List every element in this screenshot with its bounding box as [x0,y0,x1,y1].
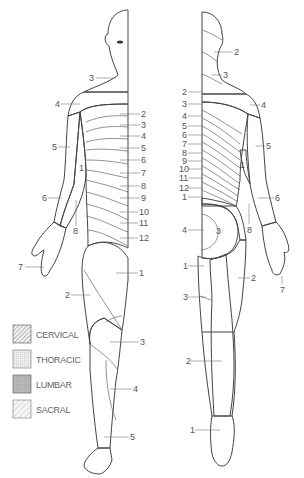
label-s3-back: 3 [216,226,221,236]
lumbar-swatch [13,375,31,393]
back-leg-sacral-s2 [210,254,234,416]
front-lower-leg-lumbar [90,318,122,448]
label-l5-front: 5 [130,432,135,442]
back-head-cervical [202,12,246,94]
label-t4-back: 4 [182,111,187,121]
front-hand [32,222,66,276]
label-l3-back: 3 [183,292,188,302]
label-s4-back: 4 [182,225,187,235]
label-c5-front: 5 [52,142,57,152]
label-c8-front: 8 [73,226,78,236]
label-l4-front: 4 [133,384,138,394]
label-l2-back: 2 [251,273,256,283]
label-l1-front: 1 [139,268,144,278]
sacral-swatch [13,400,31,418]
label-t7-front: 7 [141,168,146,178]
back-thoracic-bands [202,110,242,206]
label-t6-front: 6 [141,155,146,165]
front-foot [84,448,112,474]
legend-label-cervical: CERVICAL [36,330,79,340]
label-l2-front: 2 [65,290,70,300]
label-c3-back: 3 [223,70,228,80]
label-c2-back: 2 [234,47,239,57]
label-t2-front: 2 [141,109,146,119]
label-c5-back: 5 [266,141,271,151]
cervical-swatch [13,325,31,343]
label-t1-front: 1 [79,163,84,173]
label-t3-front: 3 [141,120,146,130]
label-t2-back: 2 [182,87,187,97]
label-c7-front: 7 [18,262,23,272]
label-t3-back: 3 [182,99,187,109]
label-l1-back: 1 [182,192,187,202]
label-t5-front: 5 [141,143,146,153]
label-c6-back: 6 [275,193,280,203]
label-t10-front: 10 [139,207,149,217]
label-c3-front: 3 [89,73,94,83]
label-t11-back: 11 [179,173,188,183]
legend-item-lumbar: LUMBAR [13,375,73,393]
legend-item-cervical: CERVICAL [13,325,79,343]
label-c8-back: 8 [247,225,252,235]
front-thorax [80,104,128,248]
label-t1-back: 1 [240,160,245,170]
label-c4-back: 4 [261,100,266,110]
back-foot-sacral-s1 [211,416,235,466]
label-t12-front: 12 [139,233,149,243]
label-t11-front: 11 [139,218,148,228]
posterior-view [198,12,289,466]
legend-item-thoracic: THORACIC [13,350,81,368]
label-c6-front: 6 [42,193,47,203]
legend-label-sacral: SACRAL [36,405,71,415]
label-s1-back: 1 [190,425,195,435]
back-labels: 2 3 2 3 4 4 5 6 7 5 8 9 10 11 12 1 1 6 4… [179,47,285,435]
label-t4-front: 4 [141,131,146,141]
legend-label-thoracic: THORACIC [36,355,81,365]
front-thoracic-bands [86,116,128,246]
label-t9-front: 9 [141,193,146,203]
label-c4-front: 4 [55,99,60,109]
label-l3-front: 3 [140,337,145,347]
front-eye [117,41,123,44]
legend-item-sacral: SACRAL [13,400,71,418]
legend-label-lumbar: LUMBAR [36,380,73,390]
back-thigh-lumbar [198,240,246,332]
back-lower-leg [202,332,235,416]
legend: CERVICAL THORACIC LUMBAR SACRAL [13,325,81,418]
back-hand [262,222,289,275]
back-arm-cervical [247,114,276,226]
label-c7-back: 7 [280,285,285,295]
label-s2-back: 2 [186,356,191,366]
thoracic-swatch [13,350,31,368]
dermatome-diagram: 3 4 2 3 4 5 5 1 6 7 8 9 10 11 12 6 8 7 1… [0,0,304,478]
label-t8-front: 8 [141,181,146,191]
label-l1-thigh-back: 1 [183,261,188,271]
